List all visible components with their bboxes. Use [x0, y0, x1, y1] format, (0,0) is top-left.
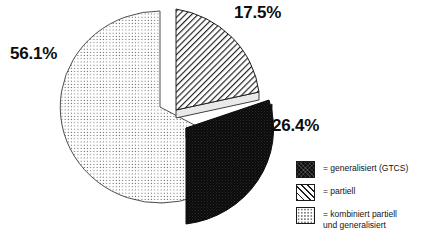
- chart-legend: = generalisiert (GTCS) = partiell = komb…: [296, 160, 424, 235]
- legend-item-generalisiert: = generalisiert (GTCS): [296, 160, 424, 178]
- solid-black-swatch-icon: [296, 161, 315, 178]
- diagonal-hatch-swatch-icon: [296, 184, 315, 201]
- pie-label-generalisiert: 26.4%: [272, 116, 319, 136]
- legend-label-partiell: = partiell: [323, 183, 355, 197]
- pie-slice-generalisiert: [186, 100, 274, 224]
- legend-item-kombiniert: = kombiniert partiell und generalisiert: [296, 206, 424, 230]
- pie-slice-partiell: [176, 9, 259, 118]
- fine-dots-swatch-icon: [296, 207, 315, 224]
- pie-label-partiell: 17.5%: [234, 3, 281, 23]
- legend-label-kombiniert: = kombiniert partiell und generalisiert: [323, 206, 397, 230]
- pie-label-kombiniert: 56.1%: [10, 44, 57, 64]
- pie-chart: 17.5% 56.1% 26.4% = generalisiert (GTCS)…: [0, 0, 424, 239]
- legend-label-generalisiert: = generalisiert (GTCS): [323, 160, 408, 174]
- legend-item-partiell: = partiell: [296, 183, 424, 201]
